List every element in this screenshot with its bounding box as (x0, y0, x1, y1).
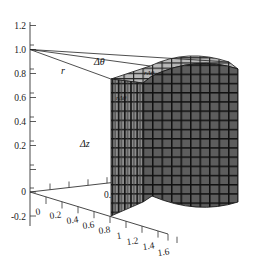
z-tick-0-8: 0.8 (14, 69, 26, 79)
x-tick-1-2: 1.2 (126, 235, 139, 247)
x-tick-0-4: 0.4 (66, 214, 79, 226)
z-tick-0-4: 0.4 (14, 117, 26, 127)
radius-label: r (61, 65, 65, 76)
z-tick-1-0: 1.0 (14, 45, 26, 55)
arc-front-label: rΔθ (116, 94, 127, 102)
x-tick-0: 0 (35, 206, 41, 217)
x-tick-1: 1 (116, 230, 122, 241)
delta-z-label: Δz (79, 138, 90, 149)
solid-front-face (140, 52, 242, 218)
solid-left-face (108, 75, 148, 220)
diagram-svg: 1.2 1.0 0.8 0.6 0.4 0.2 0 -0.2 0.5 0 0.2… (0, 0, 262, 269)
z-tick-0-2: 0.2 (14, 141, 26, 151)
x-tick-0-8: 0.8 (98, 224, 111, 236)
delta-theta-label: Δθ (93, 56, 105, 67)
x-tick-0-2: 0.2 (49, 209, 62, 221)
x-tick-0-6: 0.6 (82, 219, 95, 231)
z-tick-neg-0-2: -0.2 (11, 212, 26, 222)
x-tick-1-6: 1.6 (157, 246, 170, 258)
arc-top-label: rΔθ (144, 69, 155, 77)
z-tick-1-2: 1.2 (14, 21, 26, 31)
z-tick-0-6: 0.6 (14, 93, 26, 103)
z-tick-0: 0 (21, 187, 26, 197)
figure-canvas: 1.2 1.0 0.8 0.6 0.4 0.2 0 -0.2 0.5 0 0.2… (0, 0, 262, 269)
x-tick-1-4: 1.4 (142, 240, 155, 252)
z-axis (30, 22, 36, 226)
